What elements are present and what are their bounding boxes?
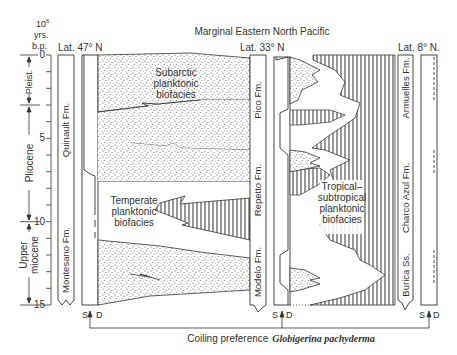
formation-charco-azul: Charco Azul Fm. [400, 163, 411, 233]
tick-15: 15 [34, 299, 46, 310]
site-47n-sinistral: S [82, 310, 88, 320]
formation-pico: Pico Fm. [252, 81, 263, 118]
unit-base: 106 [36, 18, 50, 29]
site-33n-latitude: Lat. 33° N [240, 42, 285, 53]
lower-stipple-area [98, 240, 250, 305]
tropical-label-2: subtropical [318, 192, 366, 203]
coiling-bracket [88, 311, 431, 328]
subarctic-label-1: Subarctic [155, 67, 197, 78]
temperate-label-1: Temperate [110, 195, 158, 206]
epoch-upper-miocene-line2: miocene [29, 236, 40, 274]
tropical-label-3: planktonic [319, 203, 364, 214]
epoch-upper-miocene-line1: Upper [18, 241, 29, 269]
temperate-label-3: biofacies [114, 217, 153, 228]
site-8n-coiling-column [421, 55, 437, 305]
subarctic-label-3: biofacies [156, 89, 195, 100]
biofacies-diagram: Marginal Eastern North Pacific 106 yrs. … [0, 0, 457, 355]
formation-modelo: Modelo Fm. [252, 247, 263, 297]
formation-quinault: Quinault Fm. [60, 103, 71, 157]
tropical-label-4: biofacies [322, 214, 361, 225]
subarctic-label-2: planktonic [153, 78, 198, 89]
site-33n-sinistral: S [272, 310, 278, 320]
temperate-label-2: planktonic [111, 206, 156, 217]
site-8n-latitude: Lat. 8° N. [398, 42, 440, 53]
y-axis-unit: 106 yrs. b.p. [32, 18, 50, 51]
site-47n-dextral: D [96, 310, 103, 320]
formation-montesano: Montesano Fm. [60, 227, 71, 293]
site-33n-stipple-lower [290, 268, 320, 292]
site-8n-dextral: D [433, 310, 440, 320]
site-33n-stipple-upper [290, 57, 320, 104]
tick-0: 0 [39, 49, 45, 60]
formation-burica: Burica Ss. [400, 253, 411, 296]
tropical-intrusion-wedge [155, 196, 250, 240]
site-33n-dextral: D [286, 310, 293, 320]
epoch-pleistocene: Pleist. [24, 70, 34, 95]
tick-5: 5 [39, 132, 45, 143]
site-47n-latitude: Lat. 47° N [58, 42, 103, 53]
tick-10: 10 [34, 216, 46, 227]
diagram-title: Marginal Eastern North Pacific [194, 26, 329, 37]
tropical-label-1: Tropical– [322, 181, 363, 192]
unit-years: yrs. [34, 30, 49, 40]
site-8n-sinistral: S [419, 310, 425, 320]
formation-repetto: Repetto Fm. [252, 164, 263, 216]
epoch-pliocene: Pliocene [24, 143, 35, 182]
formation-armuelles: Armuelles Fm. [400, 57, 411, 118]
coiling-caption: Coiling preferenceGlobigerina pachyderma [187, 333, 375, 344]
